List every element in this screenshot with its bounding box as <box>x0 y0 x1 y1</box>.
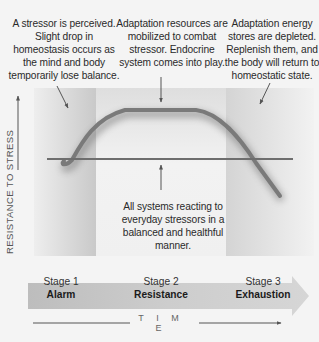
stage-alarm: Stage 1 Alarm <box>38 275 84 301</box>
y-axis-label: RESISTANCE TO STRESS <box>4 130 15 254</box>
diagram-frame: A stressor is perceived. Slight drop in … <box>0 0 319 342</box>
stage-number: Stage 3 <box>245 276 280 287</box>
resistance-annotation: Adaptation resources are mobilized to co… <box>116 17 228 69</box>
stage-name: Resistance <box>130 288 192 301</box>
stage-name: Alarm <box>38 288 84 301</box>
exhaustion-annotation: Adaptation energy stores are depleted. R… <box>222 17 319 82</box>
exhaustion-panel <box>226 88 314 256</box>
baseline-annotation: All systems reacting to everyday stresso… <box>112 200 234 252</box>
alarm-panel <box>34 88 96 256</box>
stage-name: Exhaustion <box>234 288 292 301</box>
stage-number: Stage 1 <box>43 276 78 287</box>
stage-resistance: Stage 2 Resistance <box>130 275 192 301</box>
stage-number: Stage 2 <box>143 276 178 287</box>
x-axis-label: T I M E <box>136 313 186 333</box>
stage-exhaustion: Stage 3 Exhaustion <box>234 275 292 301</box>
alarm-annotation: A stressor is perceived. Slight drop in … <box>8 17 120 82</box>
